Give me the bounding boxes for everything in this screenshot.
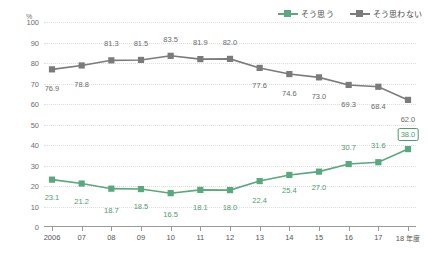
data-point-label: 82.0 <box>223 38 238 47</box>
data-point-label: 25.4 <box>282 186 297 195</box>
data-point-marker <box>346 82 352 88</box>
data-point-label: 23.1 <box>45 193 60 202</box>
y-axis-tick-label: 40 <box>31 141 39 150</box>
x-axis-tick-label: 12 <box>226 233 234 242</box>
data-point-marker <box>316 74 322 80</box>
y-axis-tick-label: 0 <box>35 223 39 232</box>
x-axis-tick-mark <box>141 227 142 231</box>
data-point-label: 18.0 <box>223 203 238 212</box>
data-point-marker <box>197 187 203 193</box>
x-axis-tick-mark <box>230 227 231 231</box>
data-point-marker <box>168 53 174 59</box>
data-point-marker <box>375 159 381 165</box>
x-axis-tick-label: 08 <box>107 233 115 242</box>
y-axis-tick-label: 50 <box>31 120 39 129</box>
series-lines <box>44 22 416 227</box>
y-axis-tick-label: 70 <box>31 79 39 88</box>
legend-marker-disagree-icon <box>350 9 370 18</box>
data-point-label: 81.3 <box>104 39 119 48</box>
legend-label-disagree: そう思わない <box>373 8 422 19</box>
data-point-label: 73.0 <box>312 92 327 101</box>
x-axis-tick-label: 15 <box>315 233 323 242</box>
data-point-marker <box>346 161 352 167</box>
data-point-label: 31.6 <box>371 141 386 150</box>
data-point-label: 81.5 <box>134 39 149 48</box>
data-point-label: 77.6 <box>252 81 267 90</box>
data-point-marker <box>375 84 381 90</box>
y-axis-tick-label: 90 <box>31 38 39 47</box>
x-axis-tick-label: 07 <box>77 233 85 242</box>
data-point-label: 68.4 <box>371 102 386 111</box>
series-line <box>52 149 408 193</box>
legend-item-agree[interactable]: そう思う <box>278 8 334 19</box>
data-point-label: 16.5 <box>163 210 178 219</box>
legend-label-agree: そう思う <box>301 8 334 19</box>
legend-item-disagree[interactable]: そう思わない <box>350 8 422 19</box>
data-point-label: 78.8 <box>74 80 89 89</box>
data-point-marker <box>79 62 85 68</box>
x-axis-tick-mark <box>408 227 409 231</box>
x-axis-tick-mark <box>319 227 320 231</box>
data-point-marker <box>227 187 233 193</box>
data-point-marker <box>286 71 292 77</box>
x-axis-tick-label: 11 <box>196 233 204 242</box>
data-point-marker <box>405 146 411 152</box>
data-point-marker <box>138 57 144 63</box>
x-axis-tick-label: 09 <box>137 233 145 242</box>
plot-area: 1009080706050403020100 20060708091011121… <box>44 22 416 227</box>
data-point-marker <box>257 65 263 71</box>
x-axis-tick-label: 2006 <box>44 233 61 242</box>
data-point-marker <box>197 56 203 62</box>
x-axis-tick-label: 18 年度 <box>396 233 420 243</box>
data-point-label: 18.7 <box>104 206 119 215</box>
data-point-marker <box>138 186 144 192</box>
x-axis-tick-mark <box>200 227 201 231</box>
data-point-marker <box>405 97 411 103</box>
data-point-label: 81.9 <box>193 38 208 47</box>
data-point-marker <box>257 178 263 184</box>
chart-legend: そう思う そう思わない <box>278 8 422 19</box>
x-axis-tick-label: 10 <box>166 233 174 242</box>
data-point-marker <box>227 56 233 62</box>
data-point-marker <box>316 169 322 175</box>
x-axis-tick-mark <box>111 227 112 231</box>
x-axis-tick-label: 14 <box>285 233 293 242</box>
data-point-marker <box>108 57 114 63</box>
data-point-marker <box>108 186 114 192</box>
y-axis-tick-label: 30 <box>31 161 39 170</box>
data-point-label: 38.0 <box>398 128 419 141</box>
x-axis-tick-label: 16 <box>344 233 352 242</box>
x-axis-tick-label: 17 <box>374 233 382 242</box>
data-point-label: 18.5 <box>134 202 149 211</box>
data-point-label: 21.2 <box>74 197 89 206</box>
chart-container: そう思う そう思わない % 1009080706050403020100 200… <box>0 0 428 259</box>
x-axis-tick-mark <box>82 227 83 231</box>
data-point-marker <box>49 177 55 183</box>
data-point-label: 62.0 <box>401 115 416 124</box>
y-axis-tick-label: 20 <box>31 182 39 191</box>
data-point-marker <box>168 190 174 196</box>
data-point-label: 22.4 <box>252 196 267 205</box>
y-axis-tick-label: 10 <box>31 202 39 211</box>
y-axis-tick-label: 60 <box>31 100 39 109</box>
data-point-label: 27.0 <box>312 183 327 192</box>
y-axis-tick-label: 80 <box>31 59 39 68</box>
data-point-label: 74.6 <box>282 89 297 98</box>
x-axis-tick-mark <box>349 227 350 231</box>
data-point-marker <box>49 66 55 72</box>
data-point-marker <box>286 172 292 178</box>
series-line <box>52 56 408 100</box>
data-point-label: 30.7 <box>341 143 356 152</box>
x-axis-tick-label: 13 <box>255 233 263 242</box>
x-axis-tick-mark <box>52 227 53 231</box>
x-axis-tick-mark <box>378 227 379 231</box>
x-axis-tick-mark <box>289 227 290 231</box>
data-point-label: 83.5 <box>163 35 178 44</box>
x-axis-tick-mark <box>171 227 172 231</box>
data-point-marker <box>79 180 85 186</box>
data-point-label: 69.3 <box>341 100 356 109</box>
data-point-label: 18.1 <box>193 203 208 212</box>
x-axis-tick-mark <box>260 227 261 231</box>
legend-marker-agree-icon <box>278 9 298 18</box>
data-point-label: 76.9 <box>45 84 60 93</box>
